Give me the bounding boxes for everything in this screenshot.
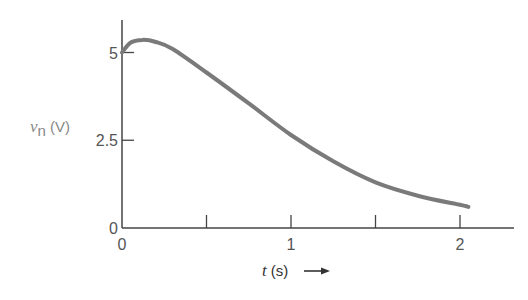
y-axis-label: vn(V) bbox=[30, 117, 70, 139]
chart: 02.55 012 vn(V) t(s) bbox=[0, 0, 528, 300]
x-axis-label: t(s) bbox=[262, 261, 288, 280]
x-tick-label: 1 bbox=[287, 236, 296, 253]
y-tick-label: 0 bbox=[109, 220, 118, 237]
x-tick-label: 2 bbox=[456, 236, 465, 253]
y-tick-label: 5 bbox=[109, 45, 118, 62]
x-tick-label: 0 bbox=[118, 236, 127, 253]
y-ticks: 02.55 bbox=[96, 45, 134, 238]
arrow-right-icon bbox=[304, 268, 330, 275]
x-ticks: 012 bbox=[118, 215, 465, 253]
data-curve bbox=[122, 40, 468, 207]
y-tick-label: 2.5 bbox=[96, 132, 118, 149]
